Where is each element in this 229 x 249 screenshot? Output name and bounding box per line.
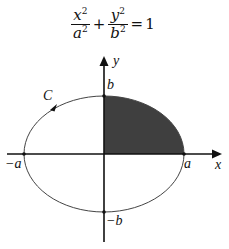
x-axis-label: x	[215, 158, 221, 172]
shaded-quadrant	[104, 96, 184, 154]
y-axis-arrowhead-icon	[100, 56, 109, 66]
diagram-canvas	[0, 0, 229, 249]
point-b	[102, 94, 106, 98]
ellipse-diagram: x2 a2 + y2 b2 = 1 y x b −b −a a	[0, 0, 229, 249]
label-curve-c: C	[43, 89, 52, 103]
point-neg-a	[22, 152, 26, 156]
label-neg-b: −b	[106, 214, 122, 228]
y-axis-label: y	[113, 54, 119, 68]
label-b: b	[107, 78, 114, 92]
label-neg-a: −a	[5, 157, 21, 171]
label-a: a	[184, 157, 191, 171]
